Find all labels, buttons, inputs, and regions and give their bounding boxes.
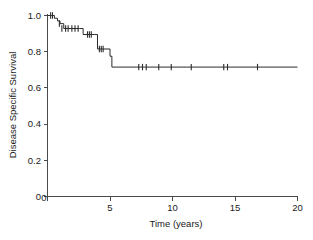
y-axis-ticks — [44, 16, 48, 197]
x-tick-label-0: 0 — [41, 192, 46, 203]
y-tick-label-0-2: 0.2 — [28, 155, 41, 166]
x-tick-label-10: 10 — [167, 202, 178, 213]
y-tick-label-0-6: 0.6 — [28, 82, 41, 93]
x-axis-ticks — [48, 197, 298, 201]
kaplan-meier-figure: 0 0.2 0.4 0.6 0.8 1.0 0 5 10 15 20 Time … — [0, 0, 313, 240]
censor-marks — [51, 12, 258, 70]
x-tick-label-5: 5 — [107, 202, 112, 213]
y-tick-label-1-0: 1.0 — [28, 10, 41, 21]
y-tick-label-0: 0 — [36, 191, 41, 202]
survival-plot: 0 0.2 0.4 0.6 0.8 1.0 0 5 10 15 20 Time … — [0, 0, 313, 240]
y-tick-label-0-4: 0.4 — [28, 118, 41, 129]
x-tick-label-15: 15 — [230, 202, 241, 213]
y-axis-title: Disease Specific Survival — [7, 52, 18, 159]
survival-step-curve — [48, 16, 298, 68]
y-tick-label-0-8: 0.8 — [28, 46, 41, 57]
x-axis-title: Time (years) — [150, 218, 203, 229]
x-tick-label-20: 20 — [292, 202, 303, 213]
